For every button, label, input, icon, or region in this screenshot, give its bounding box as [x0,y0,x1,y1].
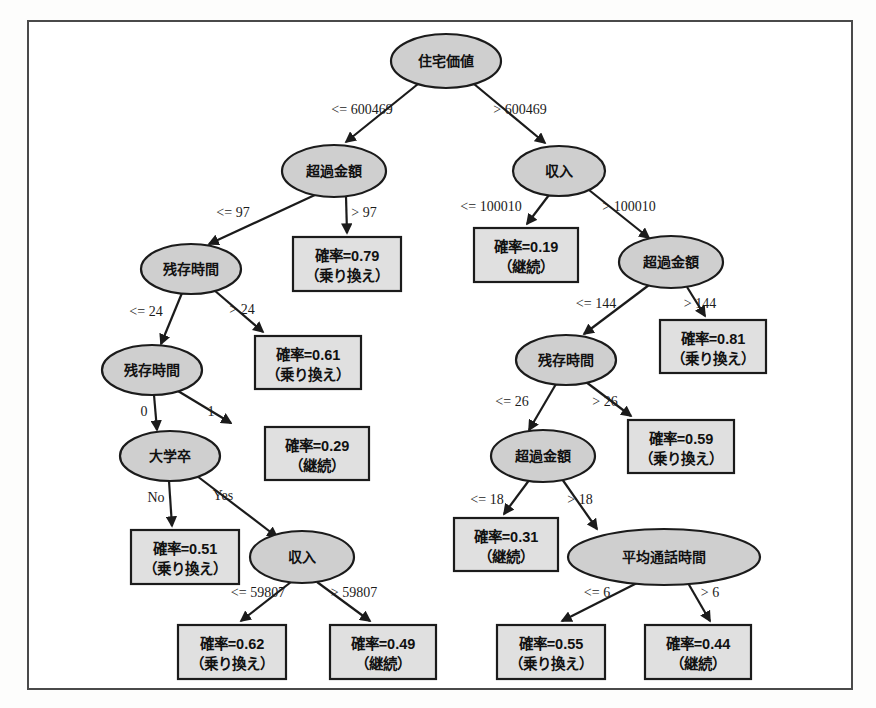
node-label: 残存時間 [538,352,594,368]
edge-arrow [197,476,277,537]
tree-edge: <= 24 [129,293,182,344]
edge-label: Yes [213,488,233,503]
edge-arrow [529,384,556,430]
tree-leaf-node[interactable]: 確率=0.59（乗り換え） [628,420,734,473]
leaf-probability: 確率=0.55 [519,635,584,652]
edge-label: <= 600469 [331,102,392,117]
leaf-probability: 確率=0.59 [649,430,714,447]
edge-label: > 144 [684,296,716,311]
edge-label: > 59807 [331,585,377,600]
tree-leaf-node[interactable]: 確率=0.79（乗り換え） [293,237,401,291]
tree-decision-node[interactable]: 超過金額 [282,145,386,197]
tree-decision-node[interactable]: 残存時間 [516,335,616,385]
tree-leaf-node[interactable]: 確率=0.29（継続） [265,427,369,480]
leaf-class: （乗り換え） [671,350,755,367]
tree-decision-node[interactable]: 住宅価値 [391,34,501,88]
tree-edge: > 6 [688,583,719,621]
decision-tree-graphic: <= 600469> 600469<= 97> 97<= 100010> 100… [0,0,876,708]
edge-label: <= 100010 [460,199,521,214]
tree-leaf-node[interactable]: 確率=0.19（継続） [474,228,578,282]
tree-leaf-node[interactable]: 確率=0.51（乗り換え） [131,530,239,584]
tree-edge: <= 144 [576,285,649,334]
edge-arrow [346,196,347,233]
edge-label: <= 18 [470,492,503,507]
tree-leaf-node[interactable]: 確率=0.44（継続） [645,625,751,679]
tree-leaf-node[interactable]: 確率=0.81（乗り換え） [660,320,766,373]
edge-label: 0 [141,404,148,419]
leaf-class: （乗り換え） [190,655,274,672]
node-label: 超過金額 [642,254,699,270]
leaf-class: （乗り換え） [509,655,593,672]
leaf-probability: 確率=0.49 [351,635,416,652]
tree-leaf-node[interactable]: 確率=0.49（継続） [330,625,436,679]
tree-edge: <= 18 [470,479,530,514]
edge-arrow [169,481,172,526]
leaf-class: （継続） [478,548,534,565]
tree-decision-node[interactable]: 平均通話時間 [568,529,760,585]
leaf-probability: 確率=0.29 [285,437,350,454]
tree-edge: > 100010 [589,190,656,238]
edge-label: <= 97 [216,205,249,220]
leaf-probability: 確率=0.31 [474,528,539,545]
tree-leaf-node[interactable]: 確率=0.55（乗り換え） [497,625,605,679]
tree-decision-node[interactable]: 超過金額 [491,430,595,482]
edge-arrow [504,479,530,514]
nodes-layer: 住宅価値超過金額収入残存時間確率=0.79（乗り換え）確率=0.19（継続）超過… [102,34,766,679]
tree-edge: <= 6 [562,583,637,621]
node-label: 収入 [288,549,316,565]
edge-label: <= 6 [584,585,610,600]
tree-edge: 0 [141,395,158,430]
tree-decision-node[interactable]: 残存時間 [102,345,202,395]
node-label: 住宅価値 [418,53,474,69]
tree-decision-node[interactable]: 収入 [250,531,354,583]
edge-label: No [147,490,164,505]
edge-label: > 100010 [602,199,655,214]
leaf-class: （乗り換え） [639,450,723,467]
edge-label: > 18 [567,492,592,507]
edge-label: > 6 [701,585,719,600]
tree-leaf-node[interactable]: 確率=0.61（乗り換え） [255,336,361,389]
edge-arrow [527,195,549,224]
node-label: 超過金額 [514,448,571,464]
node-label: 残存時間 [124,362,180,378]
edge-arrow [589,190,649,238]
tree-leaf-node[interactable]: 確率=0.62（乗り換え） [178,625,286,679]
leaf-probability: 確率=0.61 [276,346,341,363]
diagram-canvas: <= 600469> 600469<= 97> 97<= 100010> 100… [0,0,876,708]
tree-edge: > 600469 [474,84,547,143]
leaf-class: （乗り換え） [266,366,350,383]
leaf-class: （乗り換え） [143,560,227,577]
edge-arrow [178,391,231,423]
tree-edge: > 97 [346,196,377,233]
edge-label: <= 24 [129,304,162,319]
tree-edge: <= 26 [495,384,556,430]
leaf-probability: 確率=0.44 [666,635,731,652]
tree-decision-node[interactable]: 大学卒 [120,431,220,481]
edge-label: 1 [208,404,215,419]
tree-edge: Yes [197,476,277,537]
leaf-class: （乗り換え） [305,267,389,284]
leaf-probability: 確率=0.51 [153,540,218,557]
node-label: 残存時間 [163,261,219,277]
tree-edge: <= 600469 [331,84,418,142]
tree-edge: > 144 [684,287,716,316]
leaf-class: （継続） [355,655,411,672]
edge-arrow [161,293,182,344]
edge-label: <= 59807 [231,585,285,600]
tree-leaf-node[interactable]: 確率=0.31（継続） [454,518,558,571]
node-label: 超過金額 [305,163,362,179]
leaf-probability: 確率=0.19 [494,238,559,255]
tree-edge: > 18 [562,479,597,529]
leaf-class: （継続） [498,258,554,275]
tree-edge: No [147,481,172,526]
tree-decision-node[interactable]: 収入 [513,146,605,196]
tree-decision-node[interactable]: 残存時間 [141,244,241,294]
edge-label: > 600469 [493,102,546,117]
edge-label: > 26 [592,394,617,409]
leaf-class: （継続） [670,655,726,672]
node-label: 平均通話時間 [622,549,706,565]
leaf-probability: 確率=0.79 [315,247,380,264]
tree-edge: > 59807 [317,582,377,621]
tree-edge: > 26 [586,382,631,416]
tree-decision-node[interactable]: 超過金額 [619,236,723,288]
